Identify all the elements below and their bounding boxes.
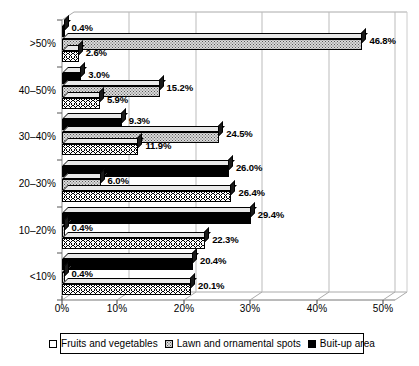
bar-fruits-4[interactable] (62, 238, 205, 249)
x-axis-tick-50: 50% (363, 303, 403, 314)
legend-label-lawn: Lawn and ornamental spots (177, 338, 301, 349)
legend-label-builtup: Buit-up area (320, 338, 375, 349)
bar-value-label-builtup-5: 20.4% (200, 255, 226, 266)
bar-value-label-lawn-0: 46.8% (369, 35, 395, 46)
bar-value-label-builtup-2: 9.3% (129, 115, 150, 126)
legend-swatch-fruits-icon (49, 340, 57, 348)
bar-value-label-fruits-3: 26.4% (238, 187, 264, 198)
bar-fruits-3[interactable] (62, 191, 231, 202)
bar-value-label-builtup-4: 29.4% (258, 209, 284, 220)
bar-value-label-builtup-3: 26.0% (236, 162, 262, 173)
bar-fruits-5[interactable] (62, 284, 191, 295)
y-axis-label-30-40: 30–40% (4, 131, 56, 142)
bar-value-label-fruits-1: 5.9% (107, 94, 128, 105)
bar-value-label-fruits-2: 11.9% (145, 140, 171, 151)
y-axis-label-10-20: 10–20% (4, 225, 56, 236)
bar-value-label-fruits-4: 22.3% (212, 234, 238, 245)
legend-swatch-lawn-icon (165, 340, 173, 348)
bar-fruits-2[interactable] (62, 144, 138, 155)
legend-item-lawn[interactable]: Lawn and ornamental spots (165, 338, 301, 349)
y-axis-label-lt10: <10% (4, 271, 56, 282)
bar-value-label-lawn-1: 15.2% (167, 82, 193, 93)
legend-swatch-builtup-icon (308, 340, 316, 348)
y-axis-label-gt50: >50% (4, 38, 56, 49)
legend-label-fruits: Fruits and vegetables (61, 338, 158, 349)
x-axis-tick-10: 10% (97, 303, 137, 314)
legend-item-builtup[interactable]: Buit-up area (308, 338, 375, 349)
chart-legend: Fruits and vegetables Lawn and ornamenta… (60, 333, 364, 354)
legend-item-fruits[interactable]: Fruits and vegetables (49, 338, 158, 349)
bar-value-label-builtup-0: 0.4% (72, 22, 93, 33)
bar-fruits-1[interactable] (62, 98, 100, 109)
bar-value-label-builtup-1: 3.0% (88, 69, 109, 80)
bar-value-label-fruits-5: 20.1% (198, 280, 224, 291)
bar-value-label-fruits-0: 2.6% (86, 47, 107, 58)
bar-value-label-lawn-2: 24.5% (226, 128, 252, 139)
x-axis-tick-40: 40% (297, 303, 337, 314)
bar-fruits-0[interactable] (62, 51, 79, 62)
y-axis-label-20-30: 20–30% (4, 178, 56, 189)
x-axis-tick-30: 30% (230, 303, 270, 314)
bar-chart: >50% 40–50% 30–40% 20–30% 10–20% <10% 0%… (0, 0, 419, 366)
y-axis-label-40-50: 40–50% (4, 85, 56, 96)
x-axis-tick-20: 20% (164, 303, 204, 314)
x-axis-tick-0: 0% (42, 303, 82, 314)
bar-lawn-0[interactable] (62, 39, 362, 50)
